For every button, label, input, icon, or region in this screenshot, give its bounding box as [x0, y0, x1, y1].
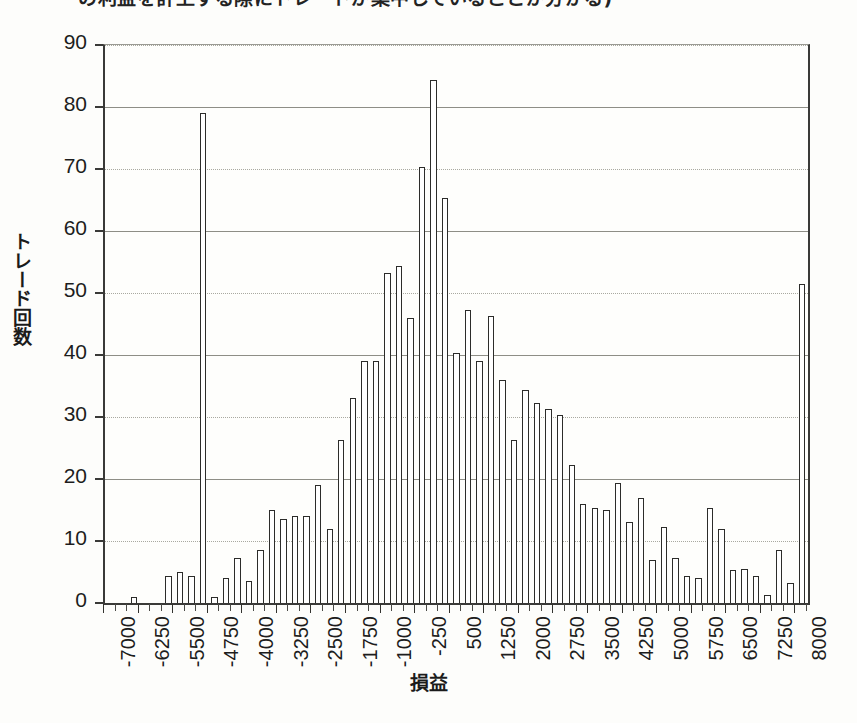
y-tick-mark-60	[95, 230, 103, 232]
bar	[361, 361, 367, 603]
bar	[718, 529, 724, 603]
x-tick-mark	[794, 604, 795, 613]
x-tick-label--2500: -2500	[324, 616, 347, 667]
x-tick-mark	[126, 604, 127, 611]
x-tick-mark	[449, 604, 450, 613]
bar	[257, 550, 263, 603]
bar	[476, 361, 482, 603]
bar	[707, 508, 713, 603]
x-tick-label-5750: 5750	[705, 616, 728, 661]
bar	[672, 558, 678, 603]
bar	[799, 284, 805, 603]
bar	[522, 390, 528, 603]
x-tick-mark	[207, 604, 208, 613]
x-tick-mark	[495, 604, 496, 611]
y-tick-label-50: 50	[31, 278, 87, 302]
x-tick-mark	[115, 604, 116, 611]
y-tick-mark-30	[95, 416, 103, 418]
x-tick-label--3250: -3250	[290, 616, 313, 667]
x-tick-mark	[253, 604, 254, 611]
x-tick-mark	[241, 604, 242, 613]
y-tick-label-40: 40	[31, 340, 87, 364]
bar	[488, 316, 494, 603]
x-tick-labels: -7000-6250-5500-4750-4000-3250-2500-1750…	[103, 614, 806, 668]
x-tick-label--5500: -5500	[186, 616, 209, 667]
bar	[649, 560, 655, 603]
x-tick-label--6250: -6250	[151, 616, 174, 667]
x-tick-label-2750: 2750	[566, 616, 589, 661]
bar	[327, 529, 333, 603]
bar	[453, 353, 459, 603]
bar	[384, 273, 390, 603]
bar	[419, 167, 425, 603]
x-tick-mark	[576, 604, 577, 611]
x-tick-mark	[737, 604, 738, 611]
x-tick-mark	[541, 604, 542, 611]
x-tick-mark	[725, 604, 726, 613]
x-tick-mark	[771, 604, 772, 611]
x-tick-mark	[691, 604, 692, 613]
bar	[338, 440, 344, 603]
x-tick-mark	[806, 604, 807, 611]
x-tick-mark	[760, 604, 761, 613]
bar	[315, 485, 321, 603]
bar	[131, 597, 137, 603]
bar	[430, 80, 436, 603]
x-tick-mark	[783, 604, 784, 611]
bar	[211, 597, 217, 603]
x-tick-mark	[322, 604, 323, 611]
bar	[269, 510, 275, 603]
bar	[626, 522, 632, 603]
x-tick-label--250: -250	[428, 616, 451, 656]
bar	[234, 558, 240, 603]
bar	[557, 415, 563, 603]
x-tick-mark	[264, 604, 265, 611]
bar	[350, 398, 356, 603]
x-tick-mark	[587, 604, 588, 613]
x-tick-mark	[184, 604, 185, 611]
x-tick-mark	[668, 604, 669, 611]
x-tick-mark	[426, 604, 427, 611]
bar	[695, 578, 701, 603]
x-tick-mark	[552, 604, 553, 613]
x-tick-mark	[645, 604, 646, 611]
x-tick-label-7250: 7250	[774, 616, 797, 661]
x-tick-mark	[345, 604, 346, 613]
x-tick-mark	[656, 604, 657, 613]
histogram-figure: トレード回数 0102030405060708090 -7000-6250-55…	[0, 0, 857, 723]
x-tick-mark	[357, 604, 358, 611]
x-tick-mark	[599, 604, 600, 611]
bar	[615, 483, 621, 603]
x-tick-label-500: 500	[463, 616, 486, 649]
bar	[787, 583, 793, 603]
bar-series	[105, 45, 808, 603]
bar	[511, 440, 517, 603]
x-tick-label-5000: 5000	[670, 616, 693, 661]
y-tick-label-60: 60	[31, 216, 87, 240]
y-tick-mark-20	[95, 478, 103, 480]
bar	[499, 380, 505, 603]
x-tick-label-4250: 4250	[635, 616, 658, 661]
x-tick-label--1000: -1000	[393, 616, 416, 667]
x-tick-mark	[310, 604, 311, 613]
x-tick-mark	[276, 604, 277, 613]
bar	[223, 578, 229, 603]
bar	[200, 113, 206, 603]
bar	[580, 504, 586, 603]
x-axis-title: 損益	[0, 668, 857, 695]
bar	[741, 569, 747, 603]
x-tick-mark	[380, 604, 381, 613]
bar	[303, 516, 309, 603]
y-tick-mark-70	[95, 168, 103, 170]
bar	[442, 198, 448, 603]
bar	[764, 595, 770, 603]
y-tick-label-70: 70	[31, 154, 87, 178]
y-tick-mark-0	[95, 602, 103, 604]
bar	[165, 576, 171, 603]
y-tick-label-10: 10	[31, 526, 87, 550]
x-tick-mark	[483, 604, 484, 613]
x-tick-mark	[230, 604, 231, 611]
x-tick-mark	[437, 604, 438, 611]
bar	[292, 516, 298, 603]
bar	[592, 508, 598, 603]
